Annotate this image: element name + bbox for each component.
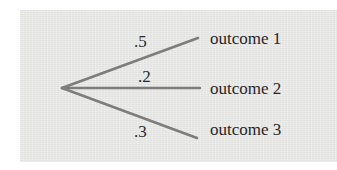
fan-diagram: [0, 0, 337, 170]
branch-line-outcome-1: [62, 38, 198, 88]
probability-label-outcome-3: .3: [134, 123, 147, 140]
figure-canvas: .5 .2 .3 outcome 1 outcome 2 outcome 3: [0, 0, 337, 170]
outcome-label-3: outcome 3: [210, 121, 281, 138]
probability-label-outcome-2: .2: [138, 68, 151, 85]
branch-line-outcome-3: [62, 88, 197, 138]
outcome-label-1: outcome 1: [210, 30, 281, 47]
outcome-label-2: outcome 2: [210, 80, 281, 97]
branch-lines: [62, 38, 200, 138]
probability-label-outcome-1: .5: [134, 33, 147, 50]
